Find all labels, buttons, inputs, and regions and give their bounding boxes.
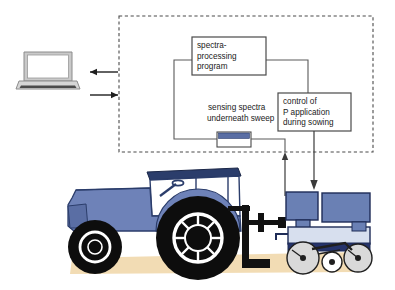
seeder [276, 192, 372, 274]
connector-spectra-to-control [266, 60, 308, 93]
tractor-rear-wheel [156, 196, 240, 280]
laptop-icon [16, 52, 80, 89]
box-control-line-3: during sowing [283, 118, 334, 127]
box-spectra-line-3: program [197, 62, 228, 71]
arrow-control-to-seeder-down [310, 131, 317, 190]
seeder-hopper-rear [322, 193, 370, 222]
label-sensing-line-1: sensing spectra [208, 103, 266, 112]
connector-sensor-to-riser [251, 139, 285, 152]
schematic-diagram: spectra- processing program control of P… [0, 0, 395, 290]
seeder-hopper-front [286, 192, 318, 220]
box-control-line-2: P application [283, 108, 330, 117]
label-sensing-spectra: sensing spectra underneath sweep [207, 103, 275, 123]
box-spectra-line-2: processing [197, 52, 237, 61]
figure-canvas: spectra- processing program control of P… [0, 0, 395, 290]
tractor-front-wheel [68, 220, 122, 274]
label-sensing-line-2: underneath sweep [207, 114, 275, 123]
box-spectra-line-1: spectra- [197, 41, 227, 50]
seeder-press-wheels [287, 242, 372, 274]
arrow-to-laptop [90, 69, 118, 75]
box-control-line-1: control of [283, 97, 317, 106]
arrow-sensor-feedback-up [282, 152, 288, 196]
box-control-p-application[interactable]: control of P application during sowing [278, 93, 351, 131]
box-spectra-processing[interactable]: spectra- processing program [192, 37, 266, 75]
sensor-unit [217, 132, 251, 147]
arrow-from-laptop [90, 92, 118, 98]
